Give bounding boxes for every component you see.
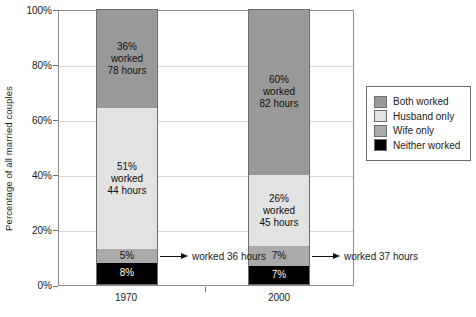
y-tick-label-0: 0% <box>16 280 52 291</box>
segment-value: 51% <box>117 161 137 173</box>
bar-1970[interactable]: 8% 5% 51% worked 44 hours 36% worked 78 … <box>96 9 158 285</box>
segment-value: 26% <box>269 193 289 205</box>
bar-2000-segment-both-worked[interactable]: 60% worked 82 hours <box>248 9 310 175</box>
segment-worked-word: worked <box>263 205 295 217</box>
segment-value: 8% <box>120 267 134 279</box>
bar-2000-segment-neither-worked[interactable]: 7% <box>248 266 310 285</box>
annotation-2000-wife-hours: worked 37 hours <box>312 251 418 262</box>
legend: Both worked Husband only Wife only Neith… <box>366 86 471 161</box>
segment-hours: 82 hours <box>260 98 299 110</box>
y-tick-label-40: 40% <box>16 170 52 181</box>
legend-item-wife-only[interactable]: Wife only <box>374 125 463 137</box>
legend-item-neither-worked[interactable]: Neither worked <box>374 139 463 151</box>
bar-1970-segment-husband-only[interactable]: 51% worked 44 hours <box>96 108 158 249</box>
legend-swatch-wife-only <box>374 125 387 137</box>
y-tick-label-80: 80% <box>16 60 52 71</box>
bar-1970-segment-both-worked[interactable]: 36% worked 78 hours <box>96 9 158 108</box>
segment-worked-word: worked <box>111 173 143 185</box>
y-tick-label-20: 20% <box>16 225 52 236</box>
segment-value: 60% <box>269 74 289 86</box>
segment-worked-word: worked <box>111 53 143 65</box>
legend-swatch-husband-only <box>374 110 387 122</box>
legend-label-wife-only: Wife only <box>393 125 434 136</box>
plot-area: 8% 5% 51% worked 44 hours 36% worked 78 … <box>58 10 354 286</box>
legend-label-neither-worked: Neither worked <box>393 140 460 151</box>
annotation-text: worked 37 hours <box>344 251 418 262</box>
segment-value: 5% <box>120 250 134 262</box>
arrow-left-icon <box>160 253 188 260</box>
x-tick-label-2000: 2000 <box>239 292 319 303</box>
y-axis-title-text: Percentage of all married couples <box>3 86 14 231</box>
segment-value: 7% <box>272 250 286 262</box>
y-tick-label-100: 100% <box>16 5 52 16</box>
legend-label-husband-only: Husband only <box>393 111 454 122</box>
bar-1970-segment-wife-only[interactable]: 5% <box>96 249 158 263</box>
y-tick-mark-0 <box>53 286 58 287</box>
x-tick-label-1970: 1970 <box>86 292 166 303</box>
segment-value: 7% <box>272 269 286 281</box>
y-tick-label-60: 60% <box>16 115 52 126</box>
annotation-text: worked 36 hours <box>192 251 266 262</box>
legend-swatch-both-worked <box>374 96 387 108</box>
y-axis-title: Percentage of all married couples <box>0 0 18 317</box>
segment-value: 36% <box>117 41 137 53</box>
segment-worked-word: worked <box>263 86 295 98</box>
x-tick-mark-mid <box>205 287 206 292</box>
segment-hours: 44 hours <box>108 185 147 197</box>
legend-swatch-neither-worked <box>374 139 387 151</box>
bar-2000-segment-husband-only[interactable]: 26% worked 45 hours <box>248 175 310 247</box>
legend-item-husband-only[interactable]: Husband only <box>374 110 463 122</box>
legend-label-both-worked: Both worked <box>393 96 449 107</box>
segment-hours: 45 hours <box>260 217 299 229</box>
segment-hours: 78 hours <box>108 65 147 77</box>
arrow-left-icon <box>312 253 340 260</box>
annotation-1970-wife-hours: worked 36 hours <box>160 251 266 262</box>
bar-1970-segment-neither-worked[interactable]: 8% <box>96 263 158 285</box>
bar-2000[interactable]: 7% 7% 26% worked 45 hours 60% worked 82 … <box>248 9 310 285</box>
legend-item-both-worked[interactable]: Both worked <box>374 96 463 108</box>
